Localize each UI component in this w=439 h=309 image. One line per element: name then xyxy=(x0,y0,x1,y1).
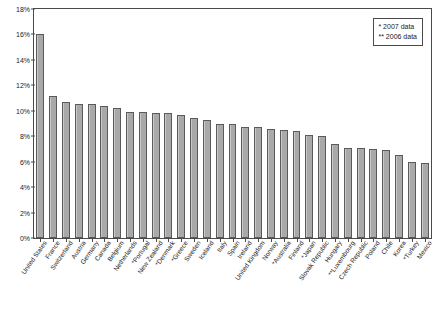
chart-container: 0%2%4%6%8%10%12%14%16%18% * 2007 data **… xyxy=(0,0,439,309)
bar xyxy=(331,144,339,238)
bar xyxy=(216,124,224,239)
bar xyxy=(49,96,57,238)
bar xyxy=(229,124,237,239)
y-tick-label: 6% xyxy=(20,158,30,165)
bar xyxy=(344,148,352,238)
bar xyxy=(254,127,262,238)
bar xyxy=(126,112,134,238)
bar xyxy=(190,118,198,238)
bar xyxy=(100,106,108,238)
bar xyxy=(139,112,147,238)
bar xyxy=(293,131,301,238)
bar xyxy=(408,162,416,238)
bar xyxy=(382,150,390,238)
plot-area: 0%2%4%6%8%10%12%14%16%18% xyxy=(34,9,431,238)
bar xyxy=(395,155,403,238)
bar xyxy=(241,127,249,238)
legend-note-2006: ** 2006 data xyxy=(378,32,417,42)
bar xyxy=(267,129,275,238)
bar xyxy=(113,108,121,238)
legend-box: * 2007 data ** 2006 data xyxy=(373,18,423,46)
y-tick-label: 16% xyxy=(16,31,30,38)
x-axis-category-label: United States xyxy=(21,240,49,276)
bar xyxy=(75,104,83,238)
y-tick-label: 8% xyxy=(20,133,30,140)
y-tick-label: 4% xyxy=(20,184,30,191)
legend-note-2007: * 2007 data xyxy=(378,22,417,32)
bar-series xyxy=(34,9,431,238)
y-tick-label: 18% xyxy=(16,6,30,13)
bar xyxy=(357,148,365,238)
bar xyxy=(62,102,70,238)
bar xyxy=(88,104,96,238)
y-tick-label: 0% xyxy=(20,235,30,242)
plot-frame: 0%2%4%6%8%10%12%14%16%18% * 2007 data **… xyxy=(33,8,432,239)
bar xyxy=(280,130,288,238)
y-tick-label: 12% xyxy=(16,82,30,89)
bar xyxy=(421,163,429,238)
bar xyxy=(203,120,211,238)
bar xyxy=(36,34,44,238)
bar xyxy=(318,136,326,238)
bar xyxy=(305,135,313,238)
x-axis-labels: United StatesFranceSwitzerlandAustriaGer… xyxy=(33,240,432,309)
y-tick-label: 2% xyxy=(20,209,30,216)
bar xyxy=(164,113,172,238)
y-tick-label: 10% xyxy=(16,107,30,114)
bar xyxy=(177,115,185,238)
bar xyxy=(369,149,377,238)
bar xyxy=(152,113,160,238)
y-tick-label: 14% xyxy=(16,56,30,63)
